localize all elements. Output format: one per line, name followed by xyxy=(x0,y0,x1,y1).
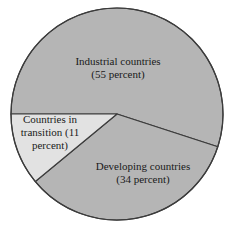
pie-chart-figure: Industrial countries (55 percent) Develo… xyxy=(0,0,233,234)
pie-chart-svg xyxy=(0,0,233,234)
